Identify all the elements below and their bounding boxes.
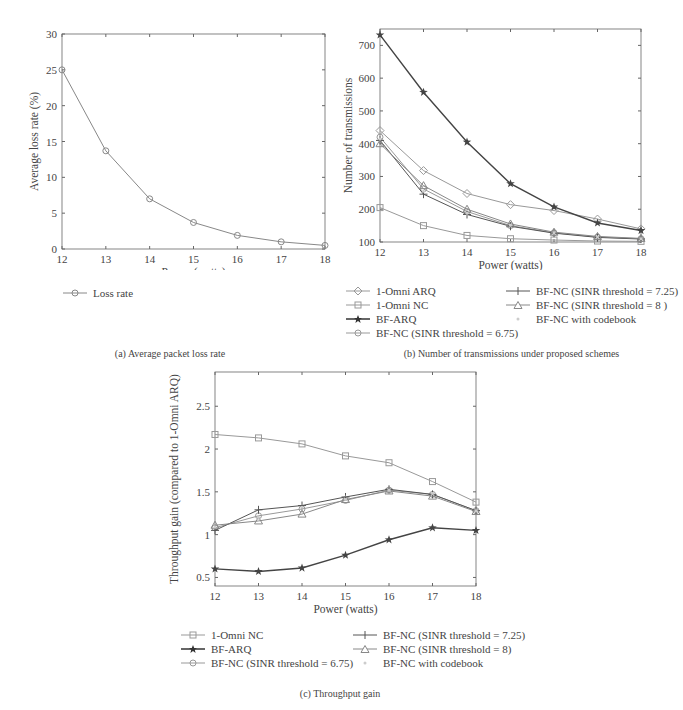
chart-c-plot: 121314151617180.511.522.5Power (watts)Th… (150, 360, 530, 620)
circle-marker-icon (345, 328, 371, 338)
y-tick-label: 500 (359, 105, 376, 117)
y-axis-label: Average loss rate (%) (28, 92, 41, 191)
legend-item-bf-nc-7-25: BF-NC (SINR threshold = 7.25) (505, 284, 678, 298)
x-tick-label: 12 (210, 590, 221, 602)
y-axis-label: Number of transmissions (342, 77, 354, 193)
legend-item-bf-nc-codebook: BF-NC with codebook (505, 312, 636, 326)
circle-marker-icon (180, 658, 206, 668)
y-tick-label: 200 (359, 203, 376, 215)
legend-label: BF-ARQ (211, 643, 251, 655)
x-tick-label: 14 (297, 590, 309, 602)
y-tick-label: 0.5 (196, 571, 210, 583)
legend-item-bf-arq: BF-ARQ (180, 642, 251, 656)
x-tick-label: 13 (253, 590, 265, 602)
chart-c-legend: 1-Omni NC BF-ARQ BF-NC (SINR threshold =… (180, 628, 540, 674)
legend-label: BF-NC (SINR threshold = 7.25) (536, 285, 678, 297)
legend-label: BF-NC (SINR threshold = 8 ) (536, 299, 667, 311)
legend-item-bf-nc-8: BF-NC (SINR threshold = 8) (352, 642, 511, 656)
legend-item-bf-nc-7-25: BF-NC (SINR threshold = 7.25) (352, 628, 525, 642)
chart-c-caption: (c) Throughput gain (150, 688, 530, 699)
legend-label: BF-NC with codebook (383, 657, 483, 669)
legend-label: BF-ARQ (376, 313, 416, 325)
y-tick-label: 400 (359, 138, 376, 150)
x-tick-label: 16 (232, 253, 244, 265)
y-tick-label: 20 (46, 100, 58, 112)
y-tick-label: 300 (359, 170, 376, 182)
x-tick-label: 12 (57, 253, 68, 265)
y-tick-label: 2.5 (196, 400, 210, 412)
plus-marker-icon (352, 630, 378, 640)
legend-item-loss-rate: Loss rate (62, 286, 133, 300)
x-tick-label: 17 (276, 253, 288, 265)
circle-marker-icon (62, 288, 88, 298)
series-bf-nc-sinr-threshold-7-25- (211, 485, 480, 534)
x-tick-label: 17 (427, 590, 439, 602)
legend-label: 1-Omni NC (376, 299, 428, 311)
series-loss-rate (59, 67, 328, 249)
legend-item-bf-nc-codebook: BF-NC with codebook (352, 656, 483, 670)
y-tick-label: 0 (52, 243, 58, 255)
legend-label: BF-NC (SINR threshold = 6.75) (376, 327, 518, 339)
legend-item-1-omni-nc: 1-Omni NC (180, 628, 263, 642)
chart-a-panel: 12131415161718051015202530Power (watts)A… (0, 0, 340, 270)
x-tick-label: 18 (636, 246, 648, 258)
x-tick-label: 12 (375, 246, 386, 258)
square-marker-icon (180, 630, 206, 640)
y-tick-label: 10 (46, 171, 58, 183)
x-tick-label: 16 (384, 590, 396, 602)
legend-label: BF-NC with codebook (536, 313, 636, 325)
y-tick-label: 25 (46, 64, 58, 76)
x-tick-label: 18 (471, 590, 483, 602)
y-tick-label: 600 (359, 72, 376, 84)
diamond-marker-icon (345, 286, 371, 296)
legend-label: BF-NC (SINR threshold = 7.25) (383, 629, 525, 641)
square-marker-icon (345, 300, 371, 310)
x-tick-label: 15 (505, 246, 517, 258)
chart-b-caption: (b) Number of transmissions under propos… (340, 348, 683, 359)
x-tick-label: 18 (320, 253, 332, 265)
y-tick-label: 15 (46, 136, 58, 148)
legend-item-bf-nc-8: BF-NC (SINR threshold = 8 ) (505, 298, 667, 312)
y-tick-label: 1 (205, 529, 211, 541)
x-axis-label: Power (watts) (313, 603, 377, 616)
y-tick-label: 100 (359, 236, 376, 248)
x-axis-label: Power (watts) (478, 259, 542, 270)
series-bf-arq (211, 523, 481, 575)
series-bf-arq (376, 30, 646, 234)
legend-item-bf-nc-6-75: BF-NC (SINR threshold = 6.75) (180, 656, 353, 670)
x-tick-label: 14 (462, 246, 474, 258)
chart-b-plot: 12131415161718100200300400500600700Power… (340, 0, 683, 270)
plus-marker-icon (505, 286, 531, 296)
plot-frame (62, 34, 325, 249)
star-marker-icon (345, 314, 371, 324)
legend-label: Loss rate (93, 287, 133, 299)
dot-marker-icon (352, 658, 378, 668)
series-bf-nc-with-codebook (379, 137, 643, 240)
y-tick-label: 1.5 (196, 486, 210, 498)
x-axis-label: Power (watts) (161, 266, 225, 270)
chart-a-plot: 12131415161718051015202530Power (watts)A… (0, 0, 340, 270)
chart-c-panel: 121314151617180.511.522.5Power (watts)Th… (150, 360, 530, 620)
x-tick-label: 14 (144, 253, 156, 265)
star-marker-icon (180, 644, 206, 654)
chart-b-panel: 12131415161718100200300400500600700Power… (340, 0, 683, 270)
y-tick-label: 2 (205, 443, 211, 455)
dot-marker-icon (505, 314, 531, 324)
legend-label: BF-NC (SINR threshold = 6.75) (211, 657, 353, 669)
x-tick-label: 15 (340, 590, 352, 602)
y-tick-label: 700 (359, 39, 376, 51)
x-tick-label: 13 (418, 246, 430, 258)
y-tick-label: 5 (52, 207, 58, 219)
legend-item-1-omni-arq: 1-Omni ARQ (345, 284, 436, 298)
plot-frame (380, 29, 641, 242)
legend-item-1-omni-nc: 1-Omni NC (345, 298, 428, 312)
legend-label: 1-Omni NC (211, 629, 263, 641)
triangle-marker-icon (352, 644, 378, 654)
x-tick-label: 17 (592, 246, 604, 258)
x-tick-label: 13 (100, 253, 112, 265)
y-axis-label: Throughput gain (compared to 1-Omni ARQ) (168, 374, 181, 584)
legend-label: BF-NC (SINR threshold = 8) (383, 643, 511, 655)
triangle-marker-icon (505, 300, 531, 310)
x-tick-label: 15 (188, 253, 200, 265)
x-tick-label: 16 (549, 246, 561, 258)
